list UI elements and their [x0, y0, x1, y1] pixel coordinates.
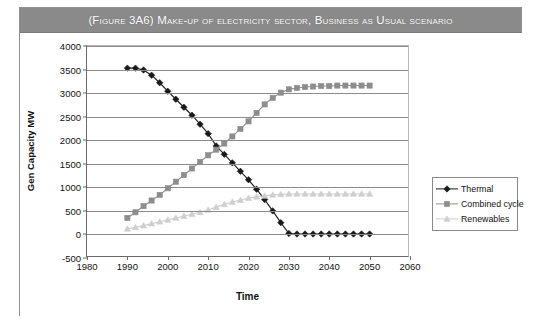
gridline — [87, 70, 408, 71]
data-point-marker — [343, 83, 348, 88]
data-point-marker — [206, 153, 211, 158]
y-axis-tick-mark — [83, 46, 87, 47]
data-point-marker — [359, 83, 364, 88]
data-point-marker — [181, 172, 186, 177]
data-point-marker — [141, 204, 146, 209]
legend-label: Thermal — [458, 184, 493, 194]
data-point-marker — [222, 141, 227, 146]
data-point-marker — [311, 84, 316, 89]
chart-canvas: Gen Capacity MW -50005001000150020002500… — [20, 33, 523, 316]
x-axis-tick-mark — [168, 256, 169, 260]
x-axis-tick-label: 2050 — [359, 261, 380, 272]
data-point-marker — [444, 201, 449, 206]
y-axis-tick-mark — [83, 140, 87, 141]
data-point-marker — [327, 83, 332, 88]
data-point-marker — [173, 179, 178, 184]
plot-area: -50005001000150020002500300035004000 198… — [86, 45, 409, 257]
gridline — [87, 164, 408, 165]
x-axis-tick-label: 2000 — [157, 261, 178, 272]
gridline — [87, 117, 408, 118]
data-point-marker — [214, 147, 219, 152]
data-point-marker — [230, 134, 235, 139]
data-point-marker — [302, 84, 307, 89]
legend-label: Combined cycle — [458, 199, 524, 209]
data-point-marker — [262, 102, 267, 107]
data-point-marker — [286, 87, 291, 92]
y-axis-tick-mark — [83, 210, 87, 211]
legend-label: Renewables — [458, 214, 509, 224]
data-point-marker — [270, 95, 275, 100]
x-axis-tick-label: 1980 — [76, 261, 97, 272]
x-axis-tick-mark — [249, 256, 250, 260]
figure-title: (Figure 3A6) Make-up of electricity sect… — [88, 14, 452, 26]
y-axis-tick-mark — [83, 234, 87, 235]
figure-frame: (Figure 3A6) Make-up of electricity sect… — [19, 7, 522, 316]
gridline — [87, 211, 408, 212]
data-point-marker — [125, 215, 130, 220]
data-point-marker — [444, 185, 450, 191]
x-axis-tick-mark — [87, 256, 88, 260]
data-point-marker — [367, 83, 372, 88]
y-axis-tick-mark — [83, 163, 87, 164]
data-point-marker — [189, 166, 194, 171]
x-axis-tick-label: 2020 — [238, 261, 259, 272]
y-axis-tick-mark — [83, 116, 87, 117]
legend-item-thermal[interactable]: Thermal — [436, 181, 513, 196]
data-point-marker — [149, 198, 154, 203]
gridline — [87, 234, 408, 235]
y-axis-tick-mark — [83, 187, 87, 188]
data-series-layer — [87, 46, 410, 258]
diamond-marker-icon — [436, 183, 458, 194]
data-point-marker — [335, 83, 340, 88]
x-axis-tick-mark — [329, 256, 330, 260]
x-axis-tick-mark — [370, 256, 371, 260]
data-point-marker — [246, 119, 251, 124]
square-marker-icon — [436, 198, 458, 209]
gridline — [87, 140, 408, 141]
triangle-marker-icon — [436, 213, 458, 224]
legend-item-renewables[interactable]: Renewables — [436, 211, 513, 226]
x-axis-tick-label: 2030 — [278, 261, 299, 272]
x-axis-tick-mark — [289, 256, 290, 260]
chart-legend: ThermalCombined cycleRenewables — [432, 177, 518, 231]
y-axis-title: Gen Capacity MW — [25, 111, 36, 191]
data-point-marker — [444, 215, 450, 221]
y-axis-tick-mark — [83, 93, 87, 94]
data-point-marker — [157, 192, 162, 197]
x-axis-tick-mark — [410, 256, 411, 260]
legend-item-combined-cycle[interactable]: Combined cycle — [436, 196, 513, 211]
figure-title-bar: (Figure 3A6) Make-up of electricity sect… — [20, 8, 521, 33]
y-axis-tick-mark — [83, 69, 87, 70]
data-point-marker — [238, 126, 243, 131]
x-axis-tick-label: 2040 — [319, 261, 340, 272]
data-point-marker — [254, 110, 259, 115]
gridline — [87, 93, 408, 94]
x-axis-tick-label: 2010 — [198, 261, 219, 272]
data-point-marker — [294, 85, 299, 90]
x-axis-tick-label: 1990 — [117, 261, 138, 272]
x-axis-title: Time — [86, 291, 409, 302]
x-axis-tick-mark — [127, 256, 128, 260]
x-axis-tick-label: 2060 — [399, 261, 420, 272]
gridline — [87, 46, 408, 47]
gridline — [87, 187, 408, 188]
x-axis-tick-mark — [208, 256, 209, 260]
data-point-marker — [351, 83, 356, 88]
data-point-marker — [319, 83, 324, 88]
